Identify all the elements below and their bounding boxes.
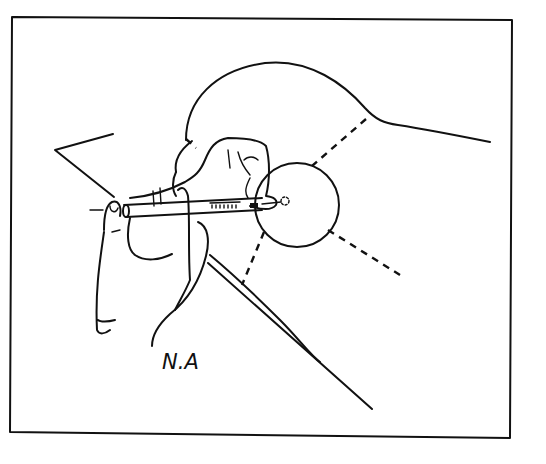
dashed-line-upper [312,119,366,166]
injection-target-icon [281,197,289,205]
syringe-needle [262,202,281,204]
syringe-barrel [124,198,262,217]
dashed-line-lower-right [328,230,400,275]
syringe-scale [210,202,240,208]
syringe-end-cap [123,205,129,217]
dashed-line-lower-left [242,232,264,285]
middle-finger-outline [175,188,190,310]
thumb-outline [104,202,121,230]
thumbnail [110,206,118,212]
shoulder-line-upper [55,134,114,197]
index-finger-outline [128,218,172,259]
arm-line-long [208,263,372,409]
arm-line-inner [210,255,320,362]
ear-outline [176,141,192,172]
palm-lower-outline [152,222,208,346]
syringe-plunger-tip [250,203,258,208]
illustration [0,0,546,464]
artist-signature: N.A [162,350,199,374]
upper-hand-knuckle [173,172,176,196]
lump-circle [255,163,339,247]
lower-hand-outline [97,232,115,333]
head-outline [186,62,490,142]
